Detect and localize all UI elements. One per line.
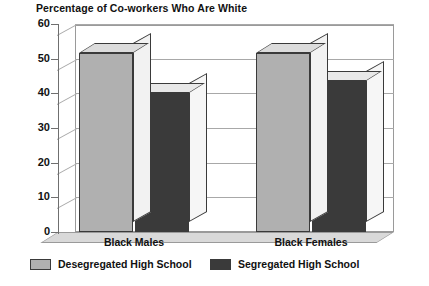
bar-front-face bbox=[256, 53, 310, 232]
legend-item-desegregated-high-school[interactable]: Desegregated High School bbox=[30, 258, 192, 270]
chart-title: Percentage of Co-workers Who Are White bbox=[36, 2, 247, 14]
y-axis-tick-label: 60 bbox=[4, 17, 50, 29]
bar-black-females-desegregated-high-school bbox=[256, 53, 310, 232]
bar-chart: Percentage of Co-workers Who Are White 0… bbox=[0, 0, 429, 286]
legend-swatch bbox=[210, 259, 231, 270]
bar-side-face bbox=[189, 73, 207, 222]
y-axis-tick-label: 40 bbox=[4, 86, 50, 98]
legend-swatch bbox=[30, 259, 51, 270]
bar-side-face bbox=[133, 33, 151, 222]
bar-front-face bbox=[79, 53, 133, 232]
category-label: Black Males bbox=[61, 236, 207, 248]
legend-label: Segregated High School bbox=[238, 258, 359, 270]
gridline bbox=[75, 24, 394, 25]
y-axis-tick-label: 0 bbox=[4, 225, 50, 237]
bar-black-males-desegregated-high-school bbox=[79, 53, 133, 232]
legend-item-segregated-high-school[interactable]: Segregated High School bbox=[210, 258, 359, 270]
y-axis-tick-label: 20 bbox=[4, 156, 50, 168]
bar-side-face bbox=[310, 33, 328, 222]
legend-label: Desegregated High School bbox=[58, 258, 192, 270]
chart-legend: Desegregated High SchoolSegregated High … bbox=[0, 258, 429, 274]
y-axis-tick-label: 30 bbox=[4, 121, 50, 133]
bar-side-face bbox=[366, 61, 384, 222]
category-label: Black Females bbox=[238, 236, 384, 248]
y-axis-line bbox=[58, 24, 59, 234]
y-axis-tick-label: 50 bbox=[4, 52, 50, 64]
y-axis-tick-label: 10 bbox=[4, 190, 50, 202]
